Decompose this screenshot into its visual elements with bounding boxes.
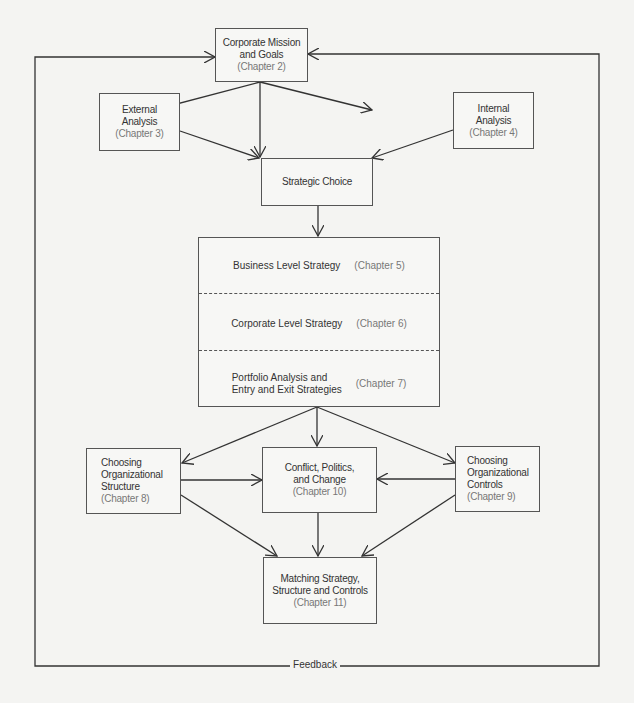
strategic-choice-node: Strategic Choice xyxy=(261,158,373,206)
external-line2: Analysis xyxy=(122,116,158,128)
mission-node: Corporate Mission and Goals (Chapter 2) xyxy=(215,28,308,82)
internal-line2: Analysis xyxy=(476,115,512,127)
controls-node: Choosing Organizational Controls (Chapte… xyxy=(455,446,540,512)
feedback-label: Feedback xyxy=(290,659,340,670)
structure-chapter: (Chapter 8) xyxy=(101,493,149,505)
corporate-level-chapter: (Chapter 6) xyxy=(356,318,407,330)
portfolio-line2: Entry and Exit Strategies xyxy=(232,384,342,396)
structure-line3: Structure xyxy=(101,481,140,493)
strategic-choice-label: Strategic Choice xyxy=(282,176,352,188)
controls-line3: Controls xyxy=(467,479,503,491)
mission-line1: Corporate Mission xyxy=(223,37,301,49)
business-level-chapter: (Chapter 5) xyxy=(354,260,405,272)
business-level-label: Business Level Strategy xyxy=(233,260,340,272)
internal-analysis-node: Internal Analysis (Chapter 4) xyxy=(453,92,534,149)
structure-line2: Organizational xyxy=(101,469,163,481)
business-level-row: Business Level Strategy (Chapter 5) xyxy=(199,260,439,272)
matching-chapter: (Chapter 11) xyxy=(294,597,347,609)
portfolio-label: Portfolio Analysis and Entry and Exit St… xyxy=(232,372,342,396)
internal-line1: Internal xyxy=(478,103,510,115)
portfolio-row: Portfolio Analysis and Entry and Exit St… xyxy=(199,372,439,396)
external-line1: External xyxy=(122,104,157,116)
controls-chapter: (Chapter 9) xyxy=(467,491,515,503)
matching-line1: Matching Strategy, xyxy=(280,573,359,585)
conflict-line2: and Change xyxy=(293,474,346,486)
matching-node: Matching Strategy, Structure and Control… xyxy=(263,557,377,624)
corporate-level-label: Corporate Level Strategy xyxy=(231,318,342,330)
portfolio-chapter: (Chapter 7) xyxy=(356,378,407,390)
corporate-level-row: Corporate Level Strategy (Chapter 6) xyxy=(199,318,439,330)
controls-line2: Organizational xyxy=(467,467,529,479)
dashed-divider xyxy=(199,293,439,294)
structure-line1: Choosing xyxy=(101,457,142,469)
conflict-chapter: (Chapter 10) xyxy=(293,486,347,498)
mission-line2: and Goals xyxy=(240,49,284,61)
structure-node: Choosing Organizational Structure (Chapt… xyxy=(86,448,181,514)
internal-chapter: (Chapter 4) xyxy=(469,127,517,139)
matching-line2: Structure and Controls xyxy=(272,585,368,597)
strategy-levels-node: Business Level Strategy (Chapter 5) Corp… xyxy=(198,237,440,407)
conflict-node: Conflict, Politics, and Change (Chapter … xyxy=(262,447,377,513)
external-analysis-node: External Analysis (Chapter 3) xyxy=(99,93,180,151)
external-chapter: (Chapter 3) xyxy=(115,128,163,140)
controls-line1: Choosing xyxy=(467,455,508,467)
portfolio-line1: Portfolio Analysis and xyxy=(232,372,342,384)
conflict-line1: Conflict, Politics, xyxy=(285,462,355,474)
dashed-divider xyxy=(199,350,439,351)
mission-chapter: (Chapter 2) xyxy=(237,61,285,73)
